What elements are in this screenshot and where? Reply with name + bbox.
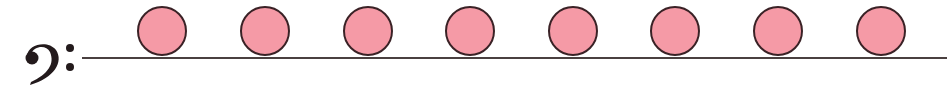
note-circle <box>548 6 598 56</box>
note-circle <box>343 6 393 56</box>
staff-line <box>82 57 947 59</box>
note-circle <box>137 6 187 56</box>
bass-clef-icon <box>22 36 84 85</box>
note-circle <box>650 6 700 56</box>
music-staff-diagram <box>0 0 947 85</box>
note-circle <box>753 6 803 56</box>
note-circle <box>445 6 495 56</box>
note-circle <box>240 6 290 56</box>
note-circle <box>856 6 906 56</box>
